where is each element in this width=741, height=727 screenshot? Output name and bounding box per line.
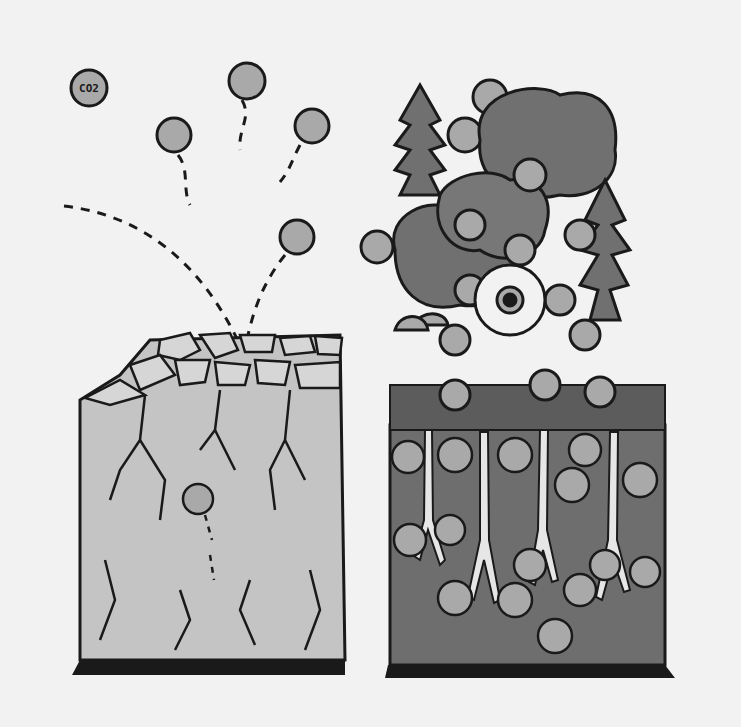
flower [475, 265, 545, 335]
healthy-soil-block [385, 385, 675, 678]
soil-carbon-illustration: CO2 [0, 0, 741, 727]
vegetation [361, 80, 630, 410]
co2-legend: CO2 [71, 70, 107, 106]
co2-label: CO2 [79, 82, 99, 95]
released-co2-molecules [157, 63, 329, 254]
degraded-soil-block [72, 333, 345, 675]
